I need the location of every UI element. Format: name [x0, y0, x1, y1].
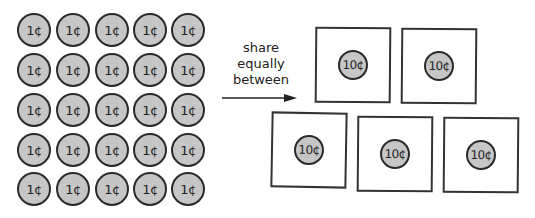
one-cent-coin: 1¢	[95, 13, 129, 47]
share-box: 10¢	[357, 116, 434, 193]
one-cent-coin: 1¢	[95, 133, 129, 167]
one-cent-coin: 1¢	[56, 13, 90, 47]
one-cent-coin: 1¢	[56, 133, 90, 167]
one-cent-coin: 1¢	[133, 13, 167, 47]
one-cent-coin: 1¢	[133, 93, 167, 127]
share-box: 10¢	[270, 111, 347, 188]
one-cent-coin: 1¢	[171, 53, 205, 87]
one-cent-coin: 1¢	[171, 172, 205, 206]
one-cent-coin: 1¢	[171, 133, 205, 167]
one-cent-coin: 1¢	[133, 133, 167, 167]
one-cent-coin: 1¢	[17, 133, 51, 167]
share-box: 10¢	[315, 27, 392, 104]
one-cent-coin: 1¢	[17, 93, 51, 127]
share-box: 10¢	[443, 117, 520, 194]
ten-cent-coin: 10¢	[424, 51, 454, 81]
one-cent-coin: 1¢	[56, 172, 90, 206]
ten-cent-coin: 10¢	[338, 50, 368, 80]
label-line-1: share	[226, 40, 296, 56]
one-cent-coin: 1¢	[17, 13, 51, 47]
label-line-3: between	[226, 72, 296, 88]
one-cent-coin: 1¢	[95, 172, 129, 206]
one-cent-coin: 1¢	[133, 172, 167, 206]
one-cent-coin: 1¢	[95, 53, 129, 87]
one-cent-coin: 1¢	[133, 53, 167, 87]
one-cent-coin: 1¢	[17, 53, 51, 87]
one-cent-coin: 1¢	[56, 53, 90, 87]
ten-cent-coin: 10¢	[294, 135, 325, 166]
right-arrow-icon	[222, 94, 298, 104]
share-equally-label: share equally between	[226, 40, 296, 88]
one-cent-coin: 1¢	[56, 93, 90, 127]
ten-cent-coin: 10¢	[466, 140, 496, 170]
label-line-2: equally	[226, 56, 296, 72]
one-cent-coin: 1¢	[171, 13, 205, 47]
one-cent-coin: 1¢	[95, 93, 129, 127]
one-cent-coin: 1¢	[17, 172, 51, 206]
one-cent-coin: 1¢	[171, 93, 205, 127]
ten-cent-coin: 10¢	[380, 139, 410, 169]
share-box: 10¢	[401, 28, 478, 105]
